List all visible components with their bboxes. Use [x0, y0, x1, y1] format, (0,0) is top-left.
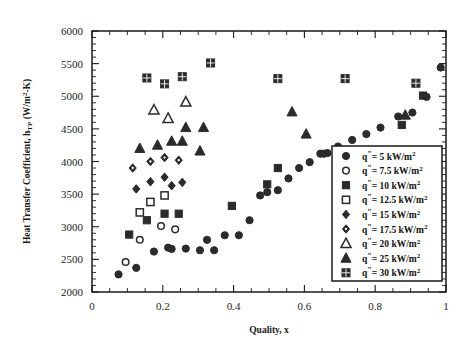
legend: q"= 5 kW/m2q"= 7.5 kW/m2q"= 10 kW/m2q"= …	[332, 146, 442, 281]
data-point	[306, 159, 313, 166]
filled-circle-marker	[203, 236, 210, 243]
open-square-marker	[147, 198, 154, 205]
dotted-diamond-center	[132, 167, 134, 169]
filled-square-marker	[274, 164, 281, 171]
data-point	[178, 73, 186, 81]
y-axis-title-tail: -K)	[22, 79, 33, 93]
y-tick-label: 5500	[61, 58, 84, 70]
open-circle-marker	[136, 237, 143, 244]
filled-circle-marker	[211, 247, 218, 254]
legend-entry[interactable]	[334, 266, 440, 280]
legend-entry[interactable]	[334, 149, 440, 163]
data-point	[412, 79, 420, 87]
legend-entry[interactable]	[334, 222, 440, 236]
data-point	[274, 187, 281, 194]
data-point	[143, 217, 150, 224]
filled-circle-marker	[257, 192, 264, 199]
data-point	[126, 231, 133, 238]
y-tick-label: 4500	[61, 123, 84, 135]
data-point	[122, 259, 129, 266]
data-point	[168, 245, 175, 252]
filled-circle-marker	[295, 164, 302, 171]
data-point	[115, 271, 122, 278]
y-tick-label: 2500	[61, 253, 84, 265]
data-point	[175, 210, 182, 217]
data-point	[341, 75, 349, 83]
open-circle-marker	[158, 223, 165, 230]
y-tick-label: 2000	[61, 286, 84, 298]
data-point	[419, 92, 426, 99]
filled-square-marker	[161, 210, 168, 217]
legend-entry[interactable]	[334, 178, 440, 192]
data-point	[136, 237, 143, 244]
data-point	[285, 175, 292, 182]
filled-square-marker	[419, 92, 426, 99]
data-point	[235, 232, 242, 239]
filled-circle-marker	[306, 159, 313, 166]
data-point	[274, 75, 282, 83]
filled-circle-marker	[274, 187, 281, 194]
filled-square-marker	[175, 210, 182, 217]
y-axis-title-text: Heat Transfer Coefficient, hTP (W/m2-K)	[21, 79, 34, 244]
filled-circle-marker	[150, 248, 157, 255]
data-point	[182, 245, 189, 252]
legend-entry[interactable]	[334, 251, 440, 265]
filled-circle-marker	[168, 245, 175, 252]
data-point	[324, 149, 331, 156]
data-point	[211, 247, 218, 254]
data-point	[161, 210, 168, 217]
filled-circle-marker	[324, 149, 331, 156]
x-tick-label: 0	[89, 300, 95, 312]
scatter-plot: 20002500300035004000450050005500600000.2…	[0, 0, 474, 352]
data-point	[257, 192, 264, 199]
data-point	[264, 181, 271, 188]
data-point	[158, 223, 165, 230]
data-point	[133, 264, 140, 271]
filled-circle-marker	[349, 136, 356, 143]
data-point	[409, 109, 416, 116]
data-point	[161, 80, 169, 88]
y-axis-title-units: (W/m	[22, 96, 33, 122]
filled-square-marker	[264, 181, 271, 188]
legend-entry[interactable]	[334, 164, 440, 178]
filled-circle-marker	[409, 109, 416, 116]
figure-container: 20002500300035004000450050005500600000.2…	[0, 0, 474, 352]
x-tick-label: 0.6	[298, 300, 312, 312]
legend-entry[interactable]	[334, 237, 440, 251]
filled-circle-marker	[115, 271, 122, 278]
y-axis-title: Heat Transfer Coefficient, hTP (W/m2-K)	[21, 79, 34, 244]
dotted-diamond-center	[163, 156, 165, 158]
filled-square-marker	[398, 121, 405, 128]
y-tick-label: 6000	[61, 25, 84, 37]
open-circle-marker	[172, 226, 179, 233]
filled-square-marker	[143, 217, 150, 224]
data-point	[221, 232, 228, 239]
y-tick-label: 3000	[61, 221, 84, 233]
x-tick-label: 0.2	[156, 300, 170, 312]
filled-square-marker	[126, 231, 133, 238]
open-circle-marker	[122, 259, 129, 266]
filled-circle-marker	[196, 247, 203, 254]
filled-square-marker	[228, 202, 235, 209]
dotted-diamond-center	[149, 160, 151, 162]
legend-entry[interactable]	[334, 207, 440, 221]
filled-circle-marker	[182, 245, 189, 252]
x-axis-title: Quality, x	[249, 325, 289, 335]
x-tick-label: 0.4	[227, 300, 241, 312]
y-tick-label: 4000	[61, 156, 84, 168]
data-point	[274, 164, 281, 171]
filled-circle-marker	[235, 232, 242, 239]
data-point	[136, 209, 143, 216]
data-point	[172, 226, 179, 233]
data-point	[150, 248, 157, 255]
data-point	[363, 130, 370, 137]
open-square-marker	[136, 209, 143, 216]
data-point	[295, 164, 302, 171]
legend-entry[interactable]	[334, 193, 440, 207]
data-point	[207, 59, 215, 67]
data-point	[377, 124, 384, 131]
filled-circle-marker	[246, 217, 253, 224]
data-point	[349, 136, 356, 143]
data-point	[161, 192, 168, 199]
filled-circle-marker	[363, 130, 370, 137]
